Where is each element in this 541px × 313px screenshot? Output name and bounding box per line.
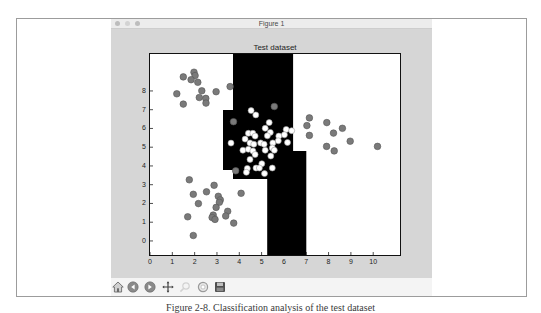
x-tick-label: 10 bbox=[363, 258, 383, 266]
data-point bbox=[275, 138, 281, 144]
subplots-icon bbox=[197, 281, 209, 293]
data-point bbox=[203, 189, 210, 196]
data-point bbox=[222, 213, 229, 220]
data-point bbox=[240, 147, 246, 153]
window-titlebar[interactable]: Figure 1 bbox=[111, 19, 432, 29]
data-point bbox=[190, 191, 197, 198]
data-point bbox=[247, 156, 253, 162]
x-tick-label: 4 bbox=[229, 258, 249, 266]
data-point bbox=[174, 91, 181, 98]
data-point bbox=[251, 141, 257, 147]
data-point bbox=[227, 83, 234, 90]
data-point bbox=[261, 141, 267, 147]
zoom-magnifier-icon bbox=[179, 281, 191, 293]
plot-axes[interactable] bbox=[150, 54, 400, 255]
y-tick-label: 5 bbox=[128, 143, 146, 151]
pan-move-icon bbox=[162, 281, 174, 293]
x-tick-label: 9 bbox=[341, 258, 361, 266]
save-icon bbox=[214, 281, 226, 293]
data-point bbox=[252, 152, 258, 158]
x-tick-label: 7 bbox=[296, 258, 316, 266]
data-point bbox=[256, 165, 262, 171]
data-point bbox=[230, 220, 237, 227]
y-tick-label: 3 bbox=[128, 181, 146, 189]
data-point bbox=[213, 88, 220, 95]
data-point bbox=[324, 119, 331, 126]
data-point bbox=[211, 182, 218, 189]
y-tick-label: 1 bbox=[128, 218, 146, 226]
data-point bbox=[186, 177, 193, 184]
data-point bbox=[188, 76, 195, 83]
data-point bbox=[266, 120, 272, 126]
data-point bbox=[180, 74, 187, 81]
back-button[interactable] bbox=[126, 280, 140, 294]
configure-subplots-button[interactable] bbox=[196, 280, 210, 294]
y-tick-label: 4 bbox=[128, 162, 146, 170]
data-point bbox=[212, 216, 219, 223]
data-point bbox=[271, 147, 277, 153]
data-point bbox=[374, 143, 381, 150]
x-tick-label: 1 bbox=[162, 258, 182, 266]
figure-caption: Figure 2-8. Classification analysis of t… bbox=[0, 302, 541, 313]
data-point bbox=[262, 147, 268, 153]
data-point bbox=[253, 112, 259, 118]
save-button[interactable] bbox=[213, 280, 227, 294]
data-point bbox=[269, 165, 275, 171]
data-point bbox=[271, 103, 278, 110]
forward-arrow-icon bbox=[144, 281, 156, 293]
data-point bbox=[248, 108, 254, 114]
data-point bbox=[262, 125, 268, 131]
plot-area bbox=[150, 54, 400, 255]
data-point bbox=[213, 204, 220, 211]
data-point bbox=[243, 169, 249, 175]
pan-button[interactable] bbox=[161, 280, 175, 294]
y-tick-label: 0 bbox=[128, 237, 146, 245]
plot-title: Test dataset bbox=[150, 43, 400, 53]
data-point bbox=[306, 115, 313, 122]
x-tick-label: 6 bbox=[274, 258, 294, 266]
x-tick-label: 2 bbox=[185, 258, 205, 266]
data-point bbox=[184, 214, 191, 221]
data-point bbox=[230, 118, 237, 125]
data-point bbox=[331, 148, 338, 155]
data-point bbox=[180, 101, 187, 108]
data-point bbox=[339, 125, 346, 132]
data-point bbox=[228, 140, 234, 146]
data-point bbox=[289, 128, 295, 134]
home-icon bbox=[112, 281, 124, 293]
x-tick-label: 5 bbox=[252, 258, 272, 266]
data-point bbox=[232, 168, 239, 175]
data-point bbox=[285, 140, 291, 146]
y-tick-label: 8 bbox=[128, 87, 146, 95]
navigation-toolbar bbox=[111, 278, 432, 296]
data-point bbox=[264, 133, 270, 139]
back-arrow-icon bbox=[127, 281, 139, 293]
data-point bbox=[238, 190, 245, 197]
data-point bbox=[196, 94, 203, 101]
zoom-to-rect-button[interactable] bbox=[178, 280, 192, 294]
data-point bbox=[330, 130, 337, 137]
forward-button[interactable] bbox=[143, 280, 157, 294]
data-point bbox=[190, 232, 197, 239]
x-tick-label: 3 bbox=[207, 258, 227, 266]
data-point bbox=[195, 200, 202, 207]
y-tick-label: 7 bbox=[128, 106, 146, 114]
x-tick-label: 8 bbox=[319, 258, 339, 266]
data-point bbox=[283, 126, 289, 132]
data-point bbox=[262, 171, 268, 177]
data-point bbox=[323, 143, 330, 150]
data-point bbox=[195, 79, 202, 86]
data-point bbox=[281, 132, 287, 138]
x-tick-label: 0 bbox=[140, 258, 160, 266]
window-title: Figure 1 bbox=[111, 19, 432, 29]
data-point bbox=[203, 100, 210, 107]
data-point bbox=[199, 88, 206, 95]
home-button[interactable] bbox=[111, 280, 125, 294]
data-point bbox=[268, 153, 274, 159]
data-point bbox=[347, 138, 354, 145]
data-point bbox=[306, 132, 313, 139]
data-point bbox=[304, 122, 311, 129]
y-tick-label: 2 bbox=[128, 199, 146, 207]
y-tick-label: 6 bbox=[128, 124, 146, 132]
data-point bbox=[252, 133, 258, 139]
